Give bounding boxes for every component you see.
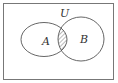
set-a-label: A: [41, 35, 50, 48]
universe-label: U: [60, 7, 70, 20]
venn-svg: U A B: [0, 0, 118, 83]
set-b-label: B: [79, 33, 88, 46]
venn-diagram: U A B: [0, 0, 118, 83]
